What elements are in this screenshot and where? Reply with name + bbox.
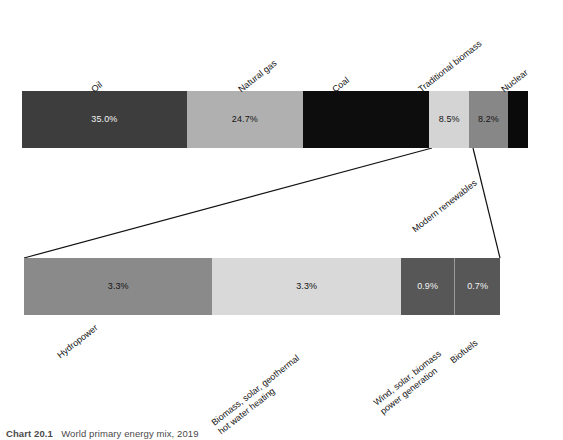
category-label-wind-solar-biomass-power: Wind, solar, biomass power generation <box>371 349 450 417</box>
bar-segment-wind-solar-biomass-power[interactable]: 0.9% <box>401 258 455 315</box>
segment-value-biofuels: 0.7% <box>467 282 488 291</box>
category-label-hydropower: Hydropower <box>55 322 100 361</box>
category-label-modern-renewables: Modern renewables <box>410 178 479 235</box>
category-label-biofuels: Biofuels <box>448 338 480 366</box>
connector-right-line <box>473 148 500 258</box>
bar-segment-hydropower[interactable]: 3.3% <box>24 258 212 315</box>
category-label-traditional-biomass: Traditional biomass <box>416 38 484 95</box>
bar-segment-oil[interactable]: 35.0% <box>22 91 187 148</box>
primary-energy-bar: 35.0% 24.7% 8.5% 8.2% <box>22 91 528 148</box>
caption-label: Chart 20.1 <box>6 428 53 439</box>
segment-value-natural-gas: 24.7% <box>232 115 258 124</box>
segment-value-biomass-solar-geothermal: 3.3% <box>296 282 317 291</box>
segment-value-wind-solar-biomass-power: 0.9% <box>417 282 438 291</box>
category-label-natural-gas: Natural gas <box>236 58 279 95</box>
bar-segment-modern-renewables[interactable]: 8.2% <box>469 91 508 148</box>
category-label-biomass-solar-geothermal: Biomass, solar, geothermal hot water hea… <box>209 353 308 437</box>
bar-segment-nuclear[interactable] <box>508 91 528 148</box>
segment-value-modern-renewables: 8.2% <box>478 115 499 124</box>
bar-segment-biomass-solar-geothermal[interactable]: 3.3% <box>212 258 400 315</box>
bar-segment-biofuels[interactable]: 0.7% <box>455 258 500 315</box>
caption-text: World primary energy mix, 2019 <box>61 428 198 439</box>
chart-figure: 35.0% 24.7% 8.5% 8.2% Oil Natural gas Co… <box>0 0 563 440</box>
connector-left-line <box>24 148 432 258</box>
modern-renewables-bar: 3.3% 3.3% 0.9% 0.7% <box>24 258 500 315</box>
segment-value-oil: 35.0% <box>91 115 117 124</box>
caption-text-separator <box>53 428 61 439</box>
bar-segment-coal[interactable] <box>303 91 429 148</box>
segment-value-traditional-biomass: 8.5% <box>439 115 460 124</box>
bar-segment-traditional-biomass[interactable]: 8.5% <box>429 91 469 148</box>
figure-caption: Chart 20.1 World primary energy mix, 201… <box>6 428 199 439</box>
bar-segment-natural-gas[interactable]: 24.7% <box>187 91 303 148</box>
segment-value-hydropower: 3.3% <box>108 282 129 291</box>
